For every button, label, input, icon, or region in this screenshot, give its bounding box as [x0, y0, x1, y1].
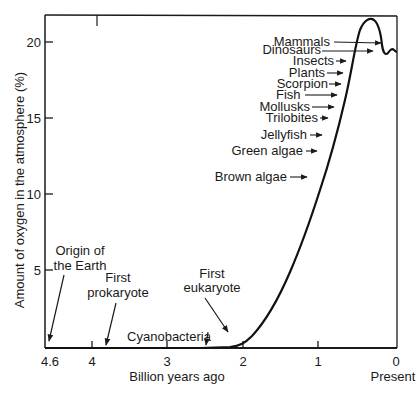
annotation-brown-algae: Brown algae: [215, 169, 307, 184]
y-axis-label: Amount of oxygen in the atmosphere (%): [12, 72, 27, 308]
svg-text:eukaryote: eukaryote: [183, 280, 240, 295]
svg-text:the Earth: the Earth: [54, 258, 107, 273]
x-tick-4.6: 4.6: [41, 354, 59, 369]
annotation-mammals: Mammals: [274, 34, 381, 49]
svg-text:Origin of: Origin of: [55, 243, 105, 258]
annotation-green-algae: Green algae: [231, 143, 317, 158]
y-tick-15: 15: [27, 111, 41, 126]
x-tick-1: 1: [314, 354, 321, 369]
annotation-jellyfish: Jellyfish: [261, 127, 322, 142]
x-axis-label: Billion years ago: [129, 369, 224, 384]
x-tick-0: 0: [392, 354, 399, 369]
x-tick-4: 4: [88, 354, 95, 369]
oxygen-history-chart: 20 15 10 5 4.6 4 3 2 1 0 Present Billion…: [0, 0, 417, 397]
svg-text:Brown algae: Brown algae: [215, 169, 287, 184]
annotation-cyanobacteria: Cyanobacteria: [127, 329, 212, 345]
y-tick-10: 10: [27, 187, 41, 202]
svg-text:Jellyfish: Jellyfish: [261, 127, 307, 142]
svg-text:Green algae: Green algae: [231, 143, 303, 158]
y-tick-20: 20: [27, 35, 41, 50]
y-tick-5: 5: [34, 263, 41, 278]
svg-text:prokaryote: prokaryote: [87, 285, 148, 300]
svg-text:First: First: [199, 266, 225, 281]
y-axis-ticks: 20 15 10 5: [27, 35, 53, 278]
svg-text:Mammals: Mammals: [274, 34, 331, 49]
x-tick-2: 2: [239, 354, 246, 369]
svg-text:First: First: [105, 270, 131, 285]
annotation-first-eukaryote: First eukaryote: [183, 266, 240, 332]
x-tick-present: Present: [371, 369, 416, 384]
x-tick-3: 3: [163, 354, 170, 369]
svg-text:Cyanobacteria: Cyanobacteria: [127, 329, 212, 344]
